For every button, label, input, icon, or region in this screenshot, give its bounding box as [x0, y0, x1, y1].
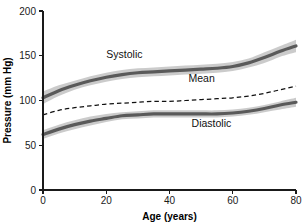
axis-lines	[43, 11, 296, 190]
x-axis-title: Age (years)	[142, 211, 196, 222]
series-label-diastolic: Diastolic	[192, 117, 232, 129]
y-axis-title: Pressure (mm Hg)	[2, 57, 13, 143]
x-tick-label: 80	[290, 195, 302, 206]
band-diastolic	[43, 98, 296, 139]
x-tick-label: 0	[40, 195, 46, 206]
chart-container: 050100150200020406080 SystolicMeanDiasto…	[0, 0, 304, 223]
y-tick-label: 0	[30, 185, 36, 196]
y-tick-label: 50	[25, 140, 37, 151]
series-label-systolic: Systolic	[106, 48, 142, 60]
chart-plot: 050100150200020406080 SystolicMeanDiasto…	[0, 0, 304, 223]
y-tick-label: 150	[19, 50, 36, 61]
line-systolic	[43, 46, 296, 98]
y-tick-label: 200	[19, 6, 36, 17]
axes-group	[39, 11, 296, 194]
series-label-mean: Mean	[189, 72, 215, 84]
x-tick-label: 60	[227, 195, 239, 206]
x-tick-label: 40	[164, 195, 176, 206]
tick-labels-group: 050100150200020406080	[19, 6, 302, 207]
x-tick-label: 20	[101, 195, 113, 206]
y-tick-label: 100	[19, 95, 36, 106]
